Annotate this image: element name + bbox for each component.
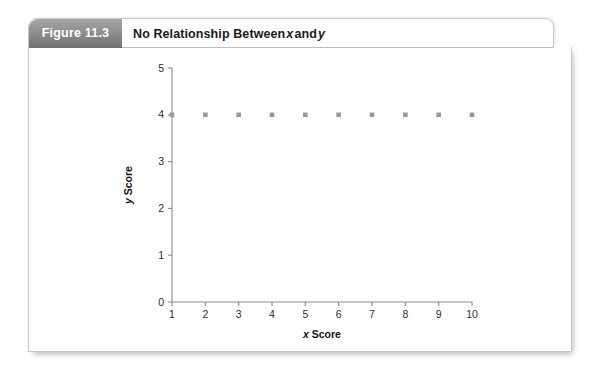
figure-number-tab: Figure 11.3: [29, 19, 122, 48]
figure-title-conjunction: and: [294, 27, 317, 41]
x-axis: 12345678910: [169, 302, 478, 320]
scatter-plot: 012345 12345678910 x Score y Score: [28, 47, 554, 352]
y-tick-label: 5: [158, 62, 164, 74]
x-tick-label: 8: [402, 308, 408, 320]
data-point: [303, 113, 308, 118]
y-tick-label: 1: [158, 249, 164, 261]
figure-title-variable-x: x: [285, 27, 294, 41]
data-point: [470, 113, 475, 118]
y-axis-ticks: 012345: [158, 62, 172, 308]
y-axis: 012345: [158, 62, 172, 308]
y-tick-label: 2: [158, 202, 164, 214]
figure-title-prefix: No Relationship Between: [133, 27, 285, 41]
data-point: [270, 113, 275, 118]
data-point: [236, 113, 241, 118]
x-tick-label: 5: [302, 308, 308, 320]
y-tick-label: 0: [158, 296, 164, 308]
x-axis-title: x Score: [302, 328, 341, 340]
y-tick-label: 4: [158, 108, 164, 120]
data-point: [203, 113, 208, 118]
y-tick-label: 3: [158, 155, 164, 167]
data-point: [370, 113, 375, 118]
x-tick-label: 7: [369, 308, 375, 320]
figure-number-label: Figure 11.3: [42, 27, 110, 41]
x-tick-label: 6: [336, 308, 342, 320]
data-point: [170, 113, 175, 118]
figure-title: No Relationship Between x and y: [133, 19, 326, 48]
data-point: [403, 113, 408, 118]
figure-header: Figure 11.3 No Relationship Between x an…: [28, 18, 554, 48]
x-tick-label: 1: [169, 308, 175, 320]
y-axis-title: y Score: [122, 166, 134, 205]
x-tick-label: 3: [236, 308, 242, 320]
figure-title-variable-y: y: [317, 27, 326, 41]
data-point: [436, 113, 441, 118]
x-tick-label: 2: [202, 308, 208, 320]
figure-card: Figure 11.3 No Relationship Between x an…: [28, 18, 572, 352]
x-tick-label: 10: [466, 308, 478, 320]
data-point-group: [170, 113, 475, 118]
x-tick-label: 4: [269, 308, 275, 320]
x-tick-label: 9: [436, 308, 442, 320]
plot-svg: 012345 12345678910 x Score y Score: [28, 47, 554, 352]
x-axis-ticks: 12345678910: [169, 302, 478, 320]
data-point: [336, 113, 341, 118]
